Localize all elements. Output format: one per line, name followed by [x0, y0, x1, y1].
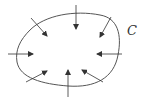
diagram-svg — [0, 0, 142, 101]
arrow-bottom-right-icon — [82, 70, 103, 82]
arrow-top-right-icon — [100, 17, 111, 37]
inward-arrows — [8, 5, 122, 97]
diagram-canvas: C — [0, 0, 142, 101]
curve-label-c: C — [127, 24, 137, 37]
